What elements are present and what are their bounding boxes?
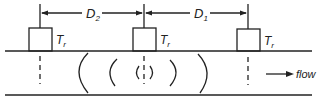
dimension-label-d1: D1 [194, 6, 208, 23]
wave-arc-right-mid [170, 60, 176, 86]
wave-arc-right-inner [150, 66, 153, 79]
flow-label: flow [296, 68, 317, 80]
flow-diagram: D2 D1 Tr Tr Tr flow [0, 0, 321, 100]
arrowhead-d2-right [136, 11, 143, 16]
wave-arc-left-mid [110, 59, 117, 86]
wave-arc-left-inner [137, 66, 140, 79]
flow-arrow-head [286, 71, 294, 77]
wave-arc-left-outer [79, 53, 88, 93]
arrowhead-d1-left [145, 11, 152, 16]
arrowhead-d1-right [240, 11, 247, 16]
transducer-right [237, 29, 260, 51]
transducer-middle [133, 28, 156, 51]
transducer-left [29, 28, 52, 51]
transducer-label-right: Tr [264, 34, 274, 50]
wave-arc-right-outer [198, 54, 207, 93]
dimension-label-d2: D2 [86, 6, 100, 23]
transducer-label-left: Tr [56, 33, 66, 49]
transducer-label-middle: Tr [160, 33, 170, 49]
arrowhead-d2-left [41, 11, 48, 16]
